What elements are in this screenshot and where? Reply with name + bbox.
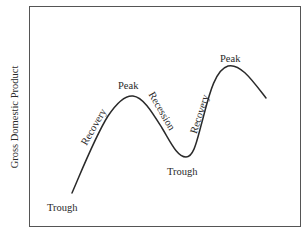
business-cycle-diagram: Gross Domestic Product Trough Recovery P… xyxy=(0,0,306,240)
gdp-cycle-curve xyxy=(0,0,306,240)
peak-label-2: Peak xyxy=(220,54,240,65)
peak-label-1: Peak xyxy=(118,81,138,92)
y-axis-label: Gross Domestic Product xyxy=(9,66,20,169)
trough-label-2: Trough xyxy=(167,167,198,178)
trough-label-1: Trough xyxy=(47,203,78,214)
